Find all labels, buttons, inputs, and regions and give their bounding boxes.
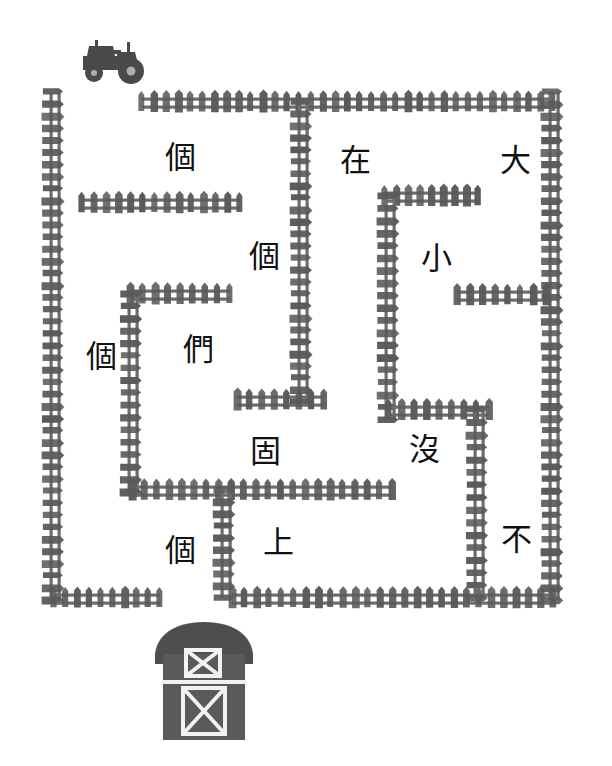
fence-segment [78,191,242,213]
fence-segment [50,586,162,609]
maze-character: 大 [500,145,531,176]
maze-character: 不 [501,524,532,555]
maze-character: 們 [183,334,214,365]
fence-segment [541,88,564,604]
maze-character: 個 [165,535,196,566]
tractor-icon [83,40,144,84]
fence-segment [127,282,233,305]
fence-layer [42,88,564,608]
fence-segment [213,486,236,600]
fence-segment [234,388,327,411]
maze-character: 小 [421,243,452,274]
maze-worksheet: 個在大個小個們固沒不個上 [0,0,612,766]
maze-character: 沒 [409,434,440,465]
fence-segment [120,290,143,496]
fence-segment [377,192,400,423]
maze-character: 個 [86,341,117,372]
maze-canvas [0,0,612,766]
maze-character: 固 [250,436,281,467]
fence-segment [290,98,313,406]
fence-segment [42,88,65,604]
maze-character: 個 [249,241,280,272]
fence-segment [229,586,557,609]
fence-segment [129,478,396,501]
barn-icon [155,622,253,740]
fence-segment [138,90,555,113]
fence-segment [454,283,551,306]
maze-character: 上 [263,527,294,558]
maze-character: 個 [165,142,196,173]
fence-segment [466,406,489,601]
maze-character: 在 [340,145,371,176]
